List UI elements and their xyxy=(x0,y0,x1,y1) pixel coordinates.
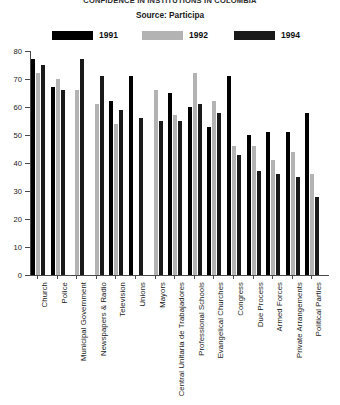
legend-swatch-1991 xyxy=(52,31,93,40)
bar-1992 xyxy=(212,101,216,275)
bar-group xyxy=(305,51,319,275)
bar-1992 xyxy=(271,160,275,275)
bar-1992 xyxy=(193,73,197,275)
y-axis-tick-label: 80 xyxy=(0,47,22,56)
bar-1994 xyxy=(80,59,84,275)
legend-label-1994: 1994 xyxy=(281,31,300,40)
x-axis-tick xyxy=(115,275,116,279)
legend-item-1992[interactable]: 1992 xyxy=(142,29,208,42)
bar-group xyxy=(266,51,280,275)
bar-group xyxy=(70,51,84,275)
x-axis-tick xyxy=(253,275,254,279)
x-axis-tick xyxy=(233,275,234,279)
bar-1994 xyxy=(139,118,143,275)
x-axis-label: Central Unitaria de Trabajadores xyxy=(177,282,186,396)
x-axis-label: Church xyxy=(40,282,49,307)
bar-1991 xyxy=(188,107,192,275)
x-axis-label: Due Process xyxy=(256,282,265,327)
bar-1992 xyxy=(95,104,99,275)
bar-group xyxy=(247,51,261,275)
y-axis-tick-label: 70 xyxy=(0,75,22,84)
legend-item-1994[interactable]: 1994 xyxy=(234,29,300,42)
legend-swatch-1994 xyxy=(234,31,275,40)
x-axis-label: Congress xyxy=(236,282,245,316)
bar-1994 xyxy=(100,76,104,275)
bar-1992 xyxy=(114,124,118,275)
bar-1991 xyxy=(129,76,133,275)
bar-1991 xyxy=(51,87,55,275)
x-axis-tick xyxy=(194,275,195,279)
x-axis-tick xyxy=(272,275,273,279)
y-axis-tick-label: 40 xyxy=(0,159,22,168)
bar-1994 xyxy=(119,110,123,275)
y-axis-tick-label: 30 xyxy=(0,187,22,196)
bar-1991 xyxy=(286,132,290,275)
bar-1994 xyxy=(237,155,241,275)
x-axis-label: Mayors xyxy=(158,282,167,308)
bar-1994 xyxy=(296,177,300,275)
bar-group xyxy=(31,51,45,275)
bar-1992 xyxy=(56,79,60,275)
bar-group xyxy=(168,51,182,275)
confidence-in-institutions-bar-chart: CONFIDENCE IN INSTITUTIONS IN COLOMBIA S… xyxy=(0,0,340,405)
y-axis-tick-label: 60 xyxy=(0,103,22,112)
bar-1991 xyxy=(207,127,211,275)
bar-group xyxy=(149,51,163,275)
bar-1991 xyxy=(168,93,172,275)
bar-group xyxy=(227,51,241,275)
legend-label-1992: 1992 xyxy=(189,31,208,40)
x-axis-label: Political Parties xyxy=(314,282,323,336)
bar-1992 xyxy=(173,115,177,275)
bar-1991 xyxy=(247,135,251,275)
bar-group xyxy=(90,51,104,275)
chart-legend: 1991 1992 1994 xyxy=(52,29,322,42)
x-axis-label: Newspapers & Radio xyxy=(99,282,108,356)
bar-1994 xyxy=(178,121,182,275)
x-axis-tick xyxy=(155,275,156,279)
x-axis-label: Unions xyxy=(138,282,147,307)
x-axis-tick xyxy=(76,275,77,279)
x-axis-tick xyxy=(292,275,293,279)
bar-1994 xyxy=(61,90,65,275)
chart-source-label: Source: Participa xyxy=(0,10,340,20)
bar-1992 xyxy=(232,146,236,275)
x-axis-label: Armed Forces xyxy=(275,282,284,331)
bar-1994 xyxy=(198,104,202,275)
x-axis-label: Television xyxy=(118,282,127,317)
bar-1992 xyxy=(291,152,295,275)
bar-1991 xyxy=(305,113,309,275)
x-axis-label: Police xyxy=(60,282,69,304)
bar-group xyxy=(129,51,143,275)
bar-group xyxy=(51,51,65,275)
legend-label-1991: 1991 xyxy=(99,31,118,40)
bar-1991 xyxy=(227,76,231,275)
x-axis-label: Municipal Government xyxy=(79,282,88,361)
legend-item-1991[interactable]: 1991 xyxy=(52,29,118,42)
y-axis-tick-label: 20 xyxy=(0,215,22,224)
x-axis-tick xyxy=(311,275,312,279)
x-axis-tick xyxy=(213,275,214,279)
bar-1994 xyxy=(41,65,45,275)
bar-1992 xyxy=(75,90,79,275)
y-axis-tick-label: 0 xyxy=(0,271,22,280)
bar-1991 xyxy=(31,59,35,275)
x-axis-label: Evangelical Churches xyxy=(216,282,225,358)
chart-title: CONFIDENCE IN INSTITUTIONS IN COLOMBIA xyxy=(0,0,340,5)
bar-1991 xyxy=(266,132,270,275)
legend-swatch-1992 xyxy=(142,31,183,40)
bar-1994 xyxy=(257,171,261,275)
x-axis-line xyxy=(30,275,329,276)
x-axis-tick xyxy=(135,275,136,279)
bar-group xyxy=(286,51,300,275)
plot-area xyxy=(31,51,329,275)
x-axis-label: Professional Schools xyxy=(197,282,206,356)
x-axis-label: Private Arrangements xyxy=(295,282,304,358)
x-axis-tick xyxy=(57,275,58,279)
bar-1994 xyxy=(217,113,221,275)
x-axis-tick xyxy=(174,275,175,279)
bar-group xyxy=(207,51,221,275)
y-axis-tick-label: 10 xyxy=(0,243,22,252)
y-axis-tick-label: 50 xyxy=(0,131,22,140)
bar-1994 xyxy=(276,174,280,275)
bar-1994 xyxy=(159,121,163,275)
